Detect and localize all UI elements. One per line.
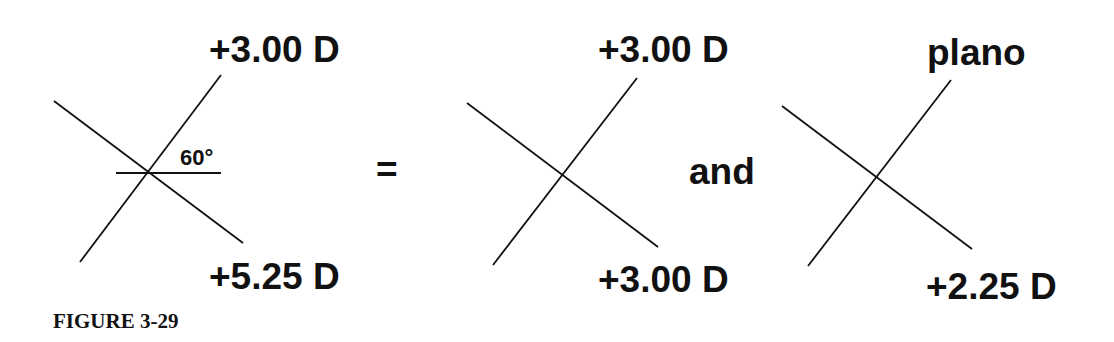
and-conjunction: and	[689, 151, 755, 192]
cross1-top-power-label: +3.00 D	[209, 29, 340, 70]
cross1-bottom-power-label: +5.25 D	[209, 256, 340, 297]
cross3-bottom-power-label: +2.25 D	[926, 266, 1057, 307]
power-cross-cylindrical: plano +2.25 D	[782, 32, 1057, 307]
power-cross-original: +3.00 D 60° +5.25 D	[54, 29, 340, 297]
cross3-top-power-label: plano	[927, 32, 1026, 73]
meridian-line-60	[493, 78, 637, 265]
optical-cross-diagram: +3.00 D 60° +5.25 D = +3.00 D +3.00 D an…	[0, 0, 1114, 342]
angle-label: 60°	[180, 145, 213, 170]
equals-sign: =	[376, 149, 398, 190]
meridian-line-60	[808, 80, 951, 266]
figure-caption: FIGURE 3-29	[53, 309, 178, 333]
cross2-bottom-power-label: +3.00 D	[598, 259, 729, 300]
cross2-top-power-label: +3.00 D	[598, 29, 729, 70]
